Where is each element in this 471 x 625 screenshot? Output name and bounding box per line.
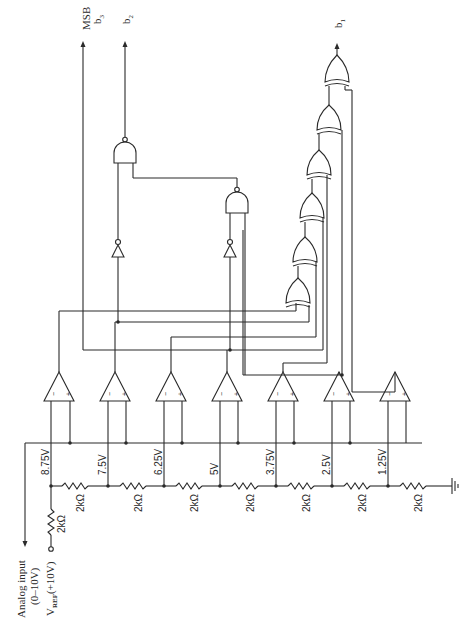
- input-labels: Analog input (0–10V) VREF(+10V): [15, 560, 59, 618]
- tap-voltage-labels: 8.75V 7.5V 6.25V 5V 3.75V 2.5V 1.25V: [40, 449, 388, 475]
- svg-text:b3: b3: [91, 15, 106, 25]
- svg-text:2kΩ: 2kΩ: [357, 493, 368, 512]
- svg-text:2kΩ: 2kΩ: [301, 493, 312, 512]
- b2-label: b2: [120, 15, 135, 25]
- svg-text:+: +: [177, 392, 184, 396]
- xor-gate-5: [317, 105, 341, 150]
- svg-text:6.25V: 6.25V: [153, 449, 164, 475]
- svg-text:2.5V: 2.5V: [321, 454, 332, 475]
- svg-text:2kΩ: 2kΩ: [189, 493, 200, 512]
- resistor-labels: 2kΩ 2kΩ 2kΩ 2kΩ 2kΩ 2kΩ 2kΩ 2kΩ: [56, 493, 424, 533]
- ground-icon: [452, 478, 458, 494]
- svg-text:−: −: [50, 392, 57, 396]
- svg-text:Analog input: Analog input: [15, 560, 27, 618]
- svg-text:2kΩ: 2kΩ: [56, 514, 67, 533]
- vref-terminal: [49, 547, 54, 552]
- svg-text:MSB: MSB: [80, 7, 92, 30]
- svg-text:−: −: [330, 392, 337, 396]
- svg-text:+: +: [289, 392, 296, 396]
- svg-text:5V: 5V: [209, 462, 220, 475]
- svg-text:−: −: [162, 392, 169, 396]
- xor-gate-1: [286, 278, 310, 307]
- svg-text:+: +: [233, 392, 240, 396]
- output-labels: MSB b3 b2 b1: [80, 7, 347, 30]
- flash-adc-schematic: − + − + − + − + − + − + − +: [0, 0, 471, 625]
- svg-text:8.75V: 8.75V: [40, 449, 51, 475]
- svg-text:b1: b1: [332, 19, 347, 29]
- svg-text:2kΩ: 2kΩ: [75, 493, 86, 512]
- svg-text:(0–10V): (0–10V): [28, 567, 41, 605]
- svg-text:b2: b2: [120, 15, 135, 25]
- svg-text:1.25V: 1.25V: [377, 449, 388, 475]
- svg-text:−: −: [106, 392, 113, 396]
- inverter-1: [112, 163, 124, 257]
- svg-text:2kΩ: 2kΩ: [413, 493, 424, 512]
- svg-text:3.75V: 3.75V: [265, 449, 276, 475]
- nand-gate-1: [114, 41, 136, 163]
- svg-text:2kΩ: 2kΩ: [245, 493, 256, 512]
- svg-text:VREF(+10V): VREF(+10V): [44, 561, 59, 616]
- svg-text:+: +: [401, 392, 408, 396]
- b1-label: b1: [332, 19, 347, 29]
- xor-gate-6: [325, 43, 352, 105]
- msb-b3-label: MSB b3: [80, 7, 106, 30]
- svg-text:−: −: [274, 392, 281, 396]
- svg-text:7.5V: 7.5V: [97, 454, 108, 475]
- svg-text:2kΩ: 2kΩ: [133, 493, 144, 512]
- nand-gate-2: [133, 163, 248, 213]
- resistor-ladder: [48, 478, 458, 551]
- inverter-2: [224, 213, 236, 257]
- xor-gate-2: [293, 237, 317, 278]
- svg-text:+: +: [65, 392, 72, 396]
- wiring: [59, 41, 395, 392]
- xor-gate-3: [300, 193, 324, 237]
- svg-text:−: −: [218, 392, 225, 396]
- svg-text:+: +: [345, 392, 352, 396]
- svg-text:+: +: [121, 392, 128, 396]
